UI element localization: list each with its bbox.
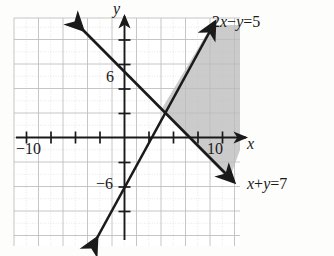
line1-equals: = [243,13,252,30]
line2-rhs: 7 [279,175,287,192]
line2-equals: = [270,175,279,192]
equation-label-line1: 2x−y=5 [212,14,260,30]
line1-operator: − [227,13,236,30]
equation-label-line2: x+y=7 [247,176,287,192]
line1-rhs: 5 [252,13,260,30]
line2-operator: + [254,175,263,192]
x-axis-label: x [247,136,254,152]
line1-coefficient: 2 [212,13,220,30]
graph-figure: 2x−y=5 x+y=7 −10 10 6 −6 x y [0,0,334,256]
x-tick-label-10: 10 [207,141,223,157]
coordinate-plane-svg [0,0,334,256]
y-axis-label: y [113,1,120,17]
y-tick-label-6: 6 [106,69,114,85]
x-tick-label-negative-10: −10 [16,141,41,157]
y-tick-label-negative-6: −6 [96,176,113,192]
